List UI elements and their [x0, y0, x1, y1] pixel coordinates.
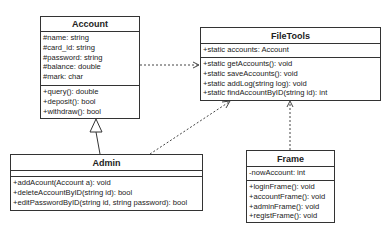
class-filetools-attributes: +static accounts: Account [201, 44, 380, 58]
method: +adminFrame(): void [249, 202, 332, 212]
class-filetools-name: FileTools [201, 28, 380, 44]
class-admin[interactable]: Admin +addAcount(Account a): void +delet… [10, 154, 203, 211]
dependency-admin-filetools [150, 101, 230, 154]
dependency-frame-filetools [287, 101, 293, 150]
attribute: #name: string [43, 33, 137, 43]
method: +static saveAccounts(): void [203, 69, 378, 79]
attribute: #password: string [43, 53, 137, 63]
class-frame-name: Frame [247, 151, 334, 167]
method: +editPasswordByID(string id, string pass… [13, 198, 200, 208]
attribute: +static accounts: Account [203, 45, 378, 55]
method: +withdraw(): bool [43, 107, 137, 117]
class-filetools-methods: +static getAccounts(): void +static save… [201, 58, 380, 99]
attribute: -nowAccount: int [249, 168, 332, 178]
method: +static findAccountByID(string id): int [203, 88, 378, 98]
method: +addAcount(Account a): void [13, 178, 200, 188]
class-frame[interactable]: Frame -nowAccount: int +loginFrame(): vo… [246, 150, 335, 223]
method: +static addLog(string log): void [203, 79, 378, 89]
dependency-account-filetools [140, 62, 199, 68]
class-admin-name: Admin [11, 155, 202, 171]
attribute: #mark: char [43, 72, 137, 82]
class-account-methods: +query(): double +deposit(): bool +withd… [41, 86, 139, 117]
method: +deposit(): bool [43, 97, 137, 107]
method: +query(): double [43, 87, 137, 97]
method: +loginFrame(): void [249, 182, 332, 192]
class-account-name: Account [41, 17, 139, 32]
class-account[interactable]: Account #name: string #card_id: string #… [40, 16, 140, 119]
class-filetools[interactable]: FileTools +static accounts: Account +sta… [200, 27, 381, 101]
method: +deleteAccountByID(string id): bool [13, 188, 200, 198]
attribute: #balance: double [43, 62, 137, 72]
method: +accountFrame(): void [249, 192, 332, 202]
generalization-admin-account [90, 119, 102, 154]
class-frame-attributes: -nowAccount: int [247, 167, 334, 181]
class-admin-methods: +addAcount(Account a): void +deleteAccou… [11, 177, 202, 208]
attribute: #card_id: string [43, 43, 137, 53]
method: +static getAccounts(): void [203, 59, 378, 69]
class-frame-methods: +loginFrame(): void +accountFrame(): voi… [247, 181, 334, 222]
class-account-attributes: #name: string #card_id: string #password… [41, 32, 139, 86]
method: +registFrame(): void [249, 211, 332, 221]
